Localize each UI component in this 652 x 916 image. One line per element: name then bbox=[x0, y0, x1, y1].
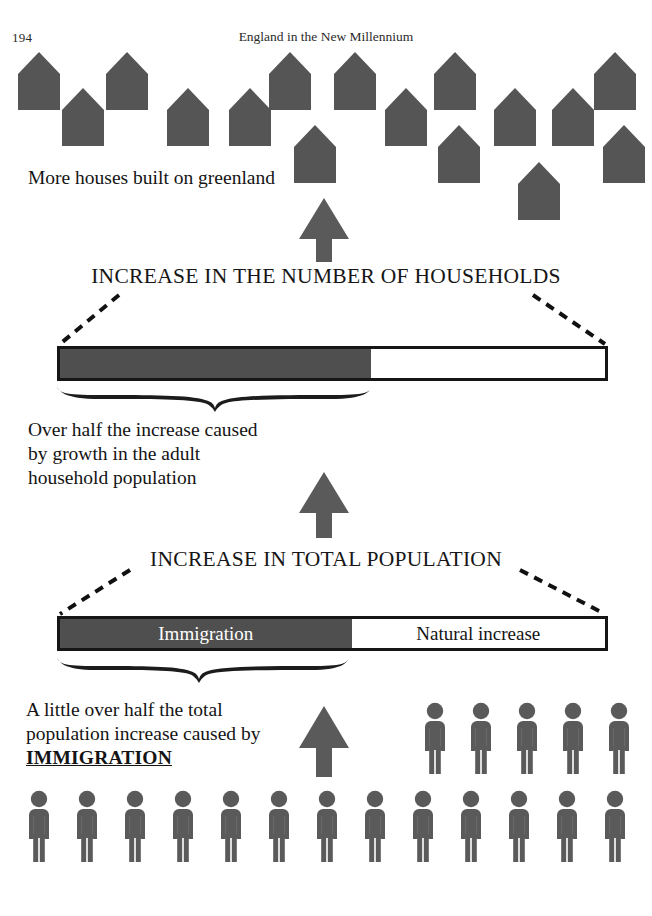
person-icon bbox=[77, 791, 97, 862]
brace-population bbox=[57, 655, 349, 683]
person-icon bbox=[221, 791, 241, 862]
person-icon bbox=[125, 791, 145, 862]
bar-segment-immigration: Immigration bbox=[60, 619, 352, 648]
banner-increase-in-households: INCREASE IN THE NUMBER OF HOUSEHOLDS bbox=[0, 264, 652, 289]
bar-segment-natural-increase: Natural increase bbox=[352, 619, 605, 648]
person-icon bbox=[425, 703, 445, 774]
person-icon bbox=[413, 791, 433, 862]
running-head: England in the New Millennium bbox=[0, 29, 652, 45]
person-icon bbox=[461, 791, 481, 862]
brace-households bbox=[57, 384, 372, 412]
person-icon bbox=[29, 791, 49, 862]
person-icon bbox=[609, 703, 629, 774]
person-icon bbox=[173, 791, 193, 862]
house-icon bbox=[18, 52, 60, 110]
up-arrow-to-population bbox=[299, 706, 349, 777]
house-icon bbox=[494, 88, 536, 146]
caption-over-half-increase: Over half the increase caused by growth … bbox=[28, 418, 258, 490]
person-icon bbox=[471, 703, 491, 774]
bar-segment-households-remainder bbox=[371, 349, 605, 378]
bar-increase-in-households bbox=[57, 346, 608, 381]
person-icon bbox=[365, 791, 385, 862]
house-icon bbox=[518, 162, 560, 220]
person-icon bbox=[509, 791, 529, 862]
up-arrow-to-houses bbox=[299, 198, 349, 262]
house-icon bbox=[552, 88, 594, 146]
bar-increase-in-total-population: Immigration Natural increase bbox=[57, 616, 608, 651]
person-icon bbox=[517, 703, 537, 774]
house-icon bbox=[106, 52, 148, 110]
caption-immigration-lead: A little over half the total population … bbox=[26, 699, 260, 744]
house-icon bbox=[62, 88, 104, 146]
up-arrow-to-households bbox=[299, 472, 349, 538]
dashed-connectors-households bbox=[60, 295, 605, 344]
banner-increase-in-total-population: INCREASE IN TOTAL POPULATION bbox=[0, 547, 652, 572]
bar-segment-household-population bbox=[60, 349, 371, 378]
house-icon bbox=[603, 125, 645, 183]
caption-more-houses: More houses built on greenland bbox=[28, 166, 275, 190]
house-icon bbox=[229, 88, 271, 146]
house-icon bbox=[438, 125, 480, 183]
caption-a-little-over-half: A little over half the total population … bbox=[26, 698, 260, 770]
caption-immigration-emphasis: IMMIGRATION bbox=[26, 747, 172, 768]
house-icon bbox=[167, 88, 209, 146]
person-icon bbox=[605, 791, 625, 862]
house-icon bbox=[434, 52, 476, 110]
figure-canvas: 194 England in the New Millennium More h… bbox=[0, 0, 652, 916]
person-icon bbox=[269, 791, 289, 862]
house-icon bbox=[269, 52, 311, 110]
house-icon bbox=[294, 125, 336, 183]
person-icon bbox=[317, 791, 337, 862]
house-icon bbox=[334, 52, 376, 110]
dashed-connectors-population bbox=[60, 570, 605, 614]
house-icon bbox=[594, 52, 636, 110]
person-icon bbox=[563, 703, 583, 774]
person-icon bbox=[557, 791, 577, 862]
house-icon bbox=[385, 88, 427, 146]
